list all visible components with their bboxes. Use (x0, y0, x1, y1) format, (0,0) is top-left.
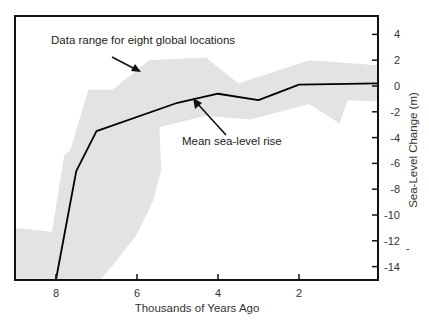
y-axis-ticks: 420-2-4-6-8-10-12-14 (372, 28, 400, 272)
y-tick-label: -14 (384, 261, 400, 273)
y-tick-label: -8 (390, 183, 400, 195)
x-tick-label: 6 (134, 287, 140, 299)
x-axis-title: Thousands of Years Ago (135, 302, 260, 314)
y-axis-title: Sea-Level Change (m) (407, 92, 419, 208)
y-tick-label: -4 (390, 132, 400, 144)
y-tick-label: -6 (390, 157, 400, 169)
y-tick-label: 0 (394, 80, 400, 92)
y-tick-label: -12 (384, 235, 400, 247)
annotation-mean-sea-level: Mean sea-level rise (182, 135, 282, 147)
annotation-data-range: Data range for eight global locations (51, 34, 235, 46)
x-tick-label: 8 (53, 287, 59, 299)
y-tick-label: -2 (390, 106, 400, 118)
sea-level-chart: 8642 420-2-4-6-8-10-12-14 Thousands of Y… (0, 0, 429, 324)
y-tick-label: 2 (394, 54, 400, 66)
y-tick-label: 4 (394, 28, 400, 40)
stray-mark: - (406, 242, 410, 254)
y-tick-label: -10 (384, 209, 400, 221)
x-tick-label: 4 (215, 287, 221, 299)
data-range-band (16, 58, 379, 280)
arrow-data-range (112, 57, 141, 72)
x-tick-label: 2 (296, 287, 302, 299)
